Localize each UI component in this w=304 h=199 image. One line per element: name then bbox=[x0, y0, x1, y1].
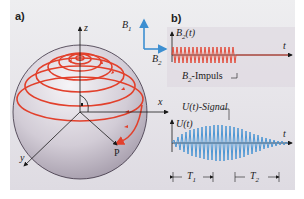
b2-label: B2 bbox=[152, 53, 162, 67]
bloch-sphere-diagram bbox=[10, 0, 295, 190]
figure-container: a) z x y P B1 B2 b) B2(t) t B2-Impuls U(… bbox=[10, 0, 295, 190]
t2-interval-label: T2 bbox=[250, 170, 259, 184]
x-axis-label: x bbox=[158, 96, 162, 107]
b2-t-axis-label: B2(t) bbox=[176, 27, 195, 41]
field-direction-legend bbox=[144, 20, 166, 49]
u-signal-annotation: U(t)-Signal bbox=[182, 101, 228, 112]
t1-interval-label: T1 bbox=[187, 170, 196, 184]
top-t-axis-label: t bbox=[283, 40, 286, 51]
z-axis-label: z bbox=[84, 22, 88, 33]
b2-impuls-annotation: B2-Impuls bbox=[182, 70, 223, 84]
bottom-t-axis-label: t bbox=[283, 128, 286, 139]
b1-label: B1 bbox=[122, 19, 132, 33]
u-t-axis-label: U(t) bbox=[176, 118, 193, 129]
panel-b-label: b) bbox=[171, 12, 181, 24]
point-p-label: P bbox=[114, 147, 120, 158]
y-axis-label: y bbox=[20, 152, 24, 163]
panel-a-label: a) bbox=[15, 10, 25, 22]
